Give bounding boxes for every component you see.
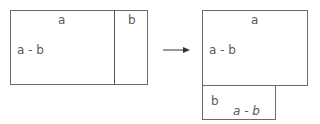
left-top-label: a <box>58 14 65 26</box>
right-top-label: a <box>251 14 258 26</box>
right-arrow-icon <box>162 45 192 55</box>
left-side-label: a - b <box>17 44 44 56</box>
left-strip-label: b <box>128 14 136 26</box>
right-bottom-length-label: a - b <box>233 105 260 117</box>
right-side-label: a - b <box>209 44 236 56</box>
left-divider-line <box>114 10 115 85</box>
right-bottom-b-label: b <box>211 95 219 107</box>
